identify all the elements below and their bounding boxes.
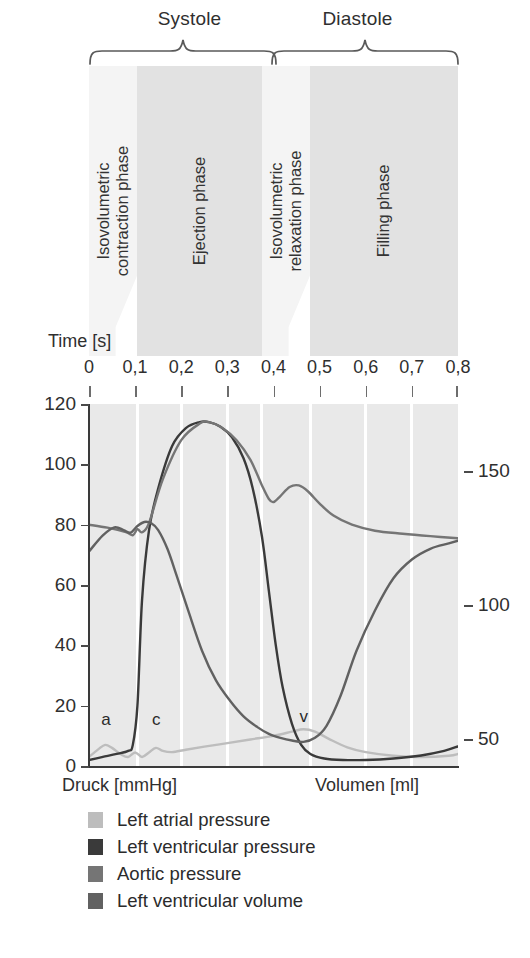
phase-band-label-3: Isovolumetricrelaxation phase [267,150,306,271]
chart-top-tick-3 [227,386,229,397]
legend: Left atrial pressureLeft ventricular pre… [88,806,315,914]
chart-plot-area [89,404,458,766]
time-tick-7: 0,7 [399,357,424,378]
legend-swatch-3 [88,893,103,909]
right-axis-caption: Volumen [ml] [315,775,419,796]
legend-label-2: Aortic pressure [117,863,241,885]
time-tick-6: 0,6 [353,357,378,378]
y-right-label-2: 150 [478,460,510,482]
y-left-tick-5 [81,464,89,466]
y-left-tick-0 [81,766,89,768]
wave-mark-v: v [299,707,308,727]
time-axis-title: Time [s] [48,331,111,352]
y-left-tick-1 [81,706,89,708]
legend-label-1: Left ventricular pressure [117,836,315,858]
chart-top-tick-2 [181,386,183,397]
chart-top-tick-8 [456,386,458,397]
legend-item-2: Aortic pressure [88,860,315,887]
chart-top-tick-5 [320,386,322,397]
phase-band-label-1: Isovolumetriccontraction phase [94,146,133,276]
time-tick-1: 0,1 [123,357,148,378]
legend-item-0: Left atrial pressure [88,806,315,833]
phase-band-2: Ejection phase [137,66,262,356]
time-tick-5: 0,5 [307,357,332,378]
y-left-label-0: 0 [16,755,76,777]
phase-band-4: Filling phase [310,66,458,356]
phase-band-label-2: Ejection phase [190,157,209,265]
legend-swatch-0 [88,812,103,828]
x-axis-line [88,766,459,768]
time-tick-8: 0,8 [445,357,470,378]
legend-swatch-1 [88,839,103,855]
y-right-label-0: 50 [478,728,499,750]
y-left-tick-3 [81,585,89,587]
legend-swatch-2 [88,866,103,882]
y-left-tick-6 [81,404,89,406]
wiggers-diagram: Systole Diastole Isovolumetriccontractio… [0,0,530,958]
wave-mark-c: c [152,710,161,730]
left-axis-caption: Druck [mmHg] [62,775,177,796]
y-left-tick-2 [81,645,89,647]
curve-left-ventricular-pressure [89,421,458,760]
y-right-tick-1 [464,605,473,607]
y-right-tick-2 [464,471,473,473]
time-tick-4: 0,4 [261,357,286,378]
y-left-label-2: 40 [16,634,76,656]
y-left-tick-4 [81,525,89,527]
wave-mark-a: a [101,710,110,730]
time-tick-3: 0,3 [215,357,240,378]
chart-top-tick-6 [366,386,368,397]
chart-top-tick-7 [412,386,414,397]
legend-item-1: Left ventricular pressure [88,833,315,860]
y-right-tick-0 [464,739,473,741]
legend-label-3: Left ventricular volume [117,890,303,912]
time-tick-2: 0,2 [169,357,194,378]
y-left-label-5: 100 [16,453,76,475]
chart-top-tick-1 [135,386,137,397]
group-label-systole: Systole [112,8,267,30]
time-tick-0: 0 [84,357,94,378]
y-left-label-6: 120 [16,393,76,415]
brace-diastole [270,38,460,66]
y-right-label-1: 100 [478,594,510,616]
phase-band-1: Isovolumetriccontraction phase [89,66,137,356]
y-left-label-4: 80 [16,514,76,536]
phase-band-label-4: Filling phase [374,165,393,258]
y-left-label-1: 20 [16,695,76,717]
chart-top-tick-0 [89,386,91,397]
phase-band-container: Isovolumetriccontraction phaseEjection p… [89,66,458,356]
curve-aortic-pressure [89,421,458,538]
y-left-label-3: 60 [16,574,76,596]
chart-top-tick-4 [274,386,276,397]
phase-band-3: Isovolumetricrelaxation phase [262,66,310,356]
brace-systole [88,38,278,66]
legend-item-3: Left ventricular volume [88,887,315,914]
chart-curves [89,404,458,766]
curve-left-atrial-pressure [89,729,458,757]
group-label-diastole: Diastole [280,8,435,30]
legend-label-0: Left atrial pressure [117,809,270,831]
